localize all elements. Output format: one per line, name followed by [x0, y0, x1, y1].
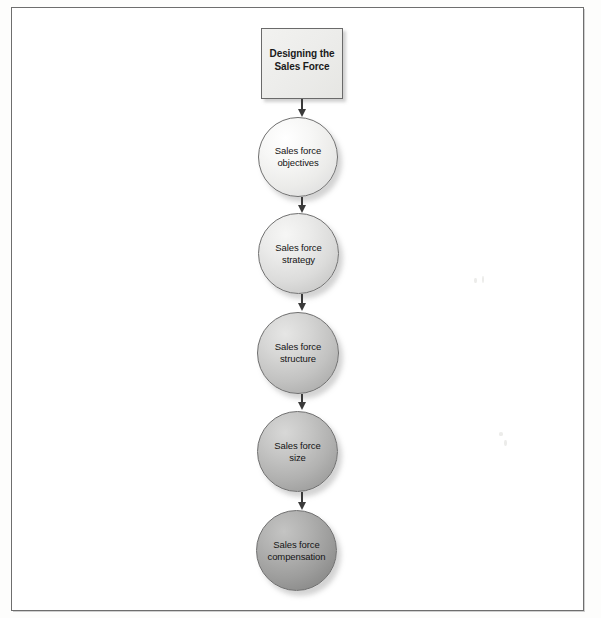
diagram-node-sales-force-size[interactable]: Sales force size [257, 411, 338, 492]
diagram-node-sales-force-structure[interactable]: Sales force structure [257, 312, 339, 394]
diagram-node-label: Sales force compensation [264, 539, 330, 563]
down-arrow-icon [301, 294, 303, 304]
scan-speckle [482, 276, 484, 283]
diagram-node-label: Sales force structure [271, 341, 325, 365]
down-arrow-icon [301, 197, 303, 206]
scan-speckle [474, 278, 477, 283]
down-arrow-icon [301, 99, 303, 110]
diagram-title-label: Designing the Sales Force [262, 47, 342, 81]
scan-speckle [504, 440, 507, 446]
diagram-node-sales-force-strategy[interactable]: Sales force strategy [258, 213, 339, 294]
diagram-node-label: Sales force size [270, 440, 324, 464]
diagram-node-label: Sales force strategy [271, 242, 325, 266]
diagram-node-label: Sales force objectives [271, 145, 325, 169]
down-arrow-icon [301, 492, 303, 503]
down-arrow-icon [301, 394, 303, 403]
scan-speckle [499, 432, 503, 436]
diagram-node-sales-force-objectives[interactable]: Sales force objectives [258, 117, 338, 197]
diagram-title-box: Designing the Sales Force [261, 28, 343, 99]
diagram-node-sales-force-compensation[interactable]: Sales force compensation [256, 510, 337, 591]
diagram-page: Designing the Sales Force Sales force ob… [0, 0, 601, 618]
